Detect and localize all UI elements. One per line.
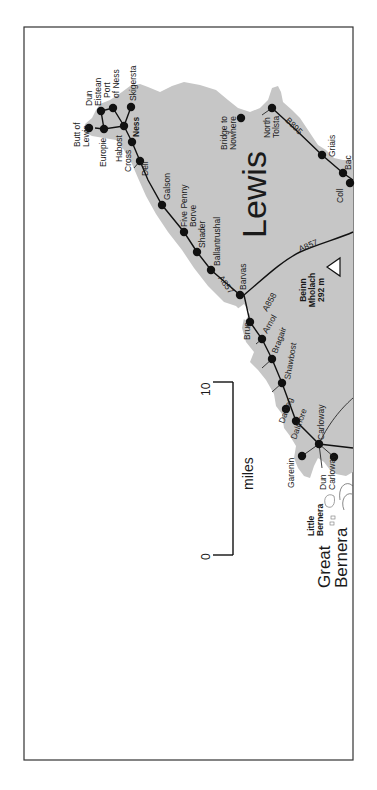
- label-ness: Ness: [131, 116, 141, 137]
- dot-europie: [100, 125, 108, 133]
- dot-carloway: [315, 440, 323, 448]
- dot-garenin: [298, 452, 306, 460]
- dot-dun-eistean: [97, 107, 105, 115]
- scale-label-0: 0: [199, 553, 213, 560]
- label-coll: Coll: [335, 188, 345, 203]
- label-north-tolsta: NorthTolsta: [262, 116, 281, 138]
- dot-shader: [193, 248, 201, 256]
- dot-port-of-ness: [109, 104, 117, 112]
- label-europie: Europie: [98, 137, 108, 167]
- label-bac: Bac: [343, 155, 353, 170]
- lewis-map: Butt ofLewis DunEistean Portof Ness Skig…: [0, 0, 377, 790]
- label-garenin: Garenin: [286, 457, 296, 488]
- label-carloway: Carloway: [316, 404, 326, 440]
- scale-label-10: 10: [199, 382, 213, 396]
- dot-barvas: [236, 291, 244, 299]
- label-bridge-to-nowhere: Bridge toNowhere: [219, 116, 238, 150]
- dot-north-tolsta: [268, 104, 276, 112]
- label-griais: Griais: [327, 135, 337, 157]
- region-label-lewis: Lewis: [235, 151, 273, 238]
- dot-griais: [318, 151, 326, 159]
- label-ballantrushal: Ballantrushal: [212, 217, 222, 266]
- label-shader: Shader: [197, 220, 207, 248]
- dot-habost: [120, 122, 128, 130]
- dot-galson: [158, 201, 166, 209]
- label-skigersta: Skigersta: [128, 65, 138, 101]
- dot-arnol: [258, 335, 266, 343]
- dot-bridge-to-nowhere: [237, 114, 245, 122]
- label-dell: Dell: [140, 161, 150, 176]
- label-galson: Galson: [162, 173, 172, 200]
- dot-bragair: [268, 355, 276, 363]
- label-cross: Cross: [123, 150, 133, 172]
- label-butt-of-lewis: Butt ofLewis: [72, 122, 91, 147]
- dot-ballantrushal: [207, 266, 215, 274]
- dot-skigersta: [127, 103, 135, 111]
- label-brue: Brue: [242, 322, 252, 340]
- dot-five-penny-borve: [180, 228, 188, 236]
- dot-cross: [128, 138, 136, 146]
- label-barvas: Barvas: [238, 264, 248, 290]
- scale-unit-label: miles: [240, 457, 256, 490]
- dot-coll: [346, 179, 354, 187]
